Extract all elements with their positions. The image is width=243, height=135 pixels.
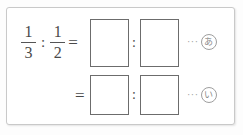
ratio-expression: 1 3 : 1 2 =: [21, 22, 78, 62]
answer-box-row1-right[interactable]: [140, 19, 179, 67]
ratio-row-1: 1 3 : 1 2 = : ··· あ: [7, 8, 236, 74]
ratio-colon: :: [41, 35, 45, 50]
exercise-frame: 1 3 : 1 2 = : ··· あ =: [6, 7, 235, 125]
ratio-row-2: = : ··· い: [7, 70, 236, 126]
row2-label-group: ··· い: [187, 87, 217, 103]
answer-box-row2-left[interactable]: [90, 75, 129, 115]
equals-sign: =: [68, 34, 78, 51]
fraction-bar: [50, 42, 65, 43]
fraction-numerator: 1: [25, 24, 33, 41]
answer-box-row1-left[interactable]: [90, 19, 129, 67]
fraction-numerator: 1: [54, 24, 62, 41]
circled-label-a-icon: あ: [201, 34, 217, 50]
worksheet-canvas: 1 3 : 1 2 = : ··· あ =: [0, 0, 243, 135]
answer-box-row2-right[interactable]: [140, 75, 179, 115]
fraction-one-half: 1 2: [50, 24, 65, 61]
row1-label-group: ··· あ: [187, 34, 217, 50]
fraction-one-third: 1 3: [21, 24, 36, 61]
leader-dots-icon: ···: [187, 37, 199, 47]
answer-colon-row1: :: [132, 36, 136, 50]
fraction-bar: [21, 42, 36, 43]
circled-label-i-icon: い: [201, 87, 217, 103]
leader-dots-icon: ···: [187, 90, 199, 100]
equals-sign-row2: =: [75, 87, 85, 104]
fraction-denominator: 2: [54, 44, 62, 61]
fraction-denominator: 3: [25, 44, 33, 61]
answer-colon-row2: :: [132, 88, 136, 102]
